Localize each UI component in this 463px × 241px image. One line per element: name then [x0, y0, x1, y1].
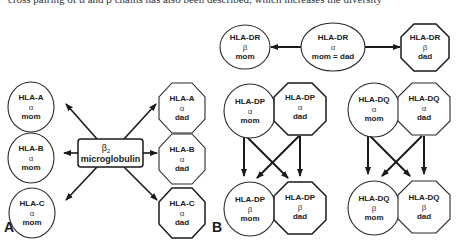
- svg-text:dad: dad: [293, 212, 307, 221]
- svg-text:HLA-B: HLA-B: [170, 145, 195, 154]
- node-hla-dr-beta-dad: HLA-DR β dad: [401, 24, 449, 71]
- arrow-dp-alpha-mom-to-beta-dad: [246, 136, 288, 178]
- svg-text:β: β: [372, 204, 377, 213]
- panel-a: β2 microglobulin HLA-A α mom HLA-B α mom…: [4, 82, 205, 238]
- svg-text:HLA-DP: HLA-DP: [235, 195, 266, 204]
- svg-text:HLA-DR: HLA-DR: [410, 33, 441, 42]
- panel-a-label: A: [4, 219, 14, 235]
- svg-text:dad: dad: [417, 113, 431, 122]
- node-hla-dp-alpha-mom: HLA-DP α mom: [224, 84, 276, 138]
- svg-text:mom: mom: [364, 114, 383, 123]
- arrow-to-hla-c-mom: [66, 167, 97, 200]
- svg-text:dad: dad: [418, 52, 432, 61]
- arrow-dq-alpha-mom-to-beta-dad: [370, 136, 410, 176]
- svg-text:dad: dad: [175, 164, 189, 173]
- node-hla-dp-alpha-dad: HLA-DP α dad: [274, 83, 326, 135]
- arrow-to-hla-c-dad: [124, 167, 157, 200]
- node-hla-c-dad: HLA-C α dad: [159, 188, 205, 238]
- svg-text:dad: dad: [293, 112, 307, 121]
- microglobulin-label: microglobulin: [81, 154, 141, 164]
- arrow-dq-alpha-dad-to-beta-mom: [382, 136, 422, 176]
- arrow-dp-alpha-dad-to-beta-mom: [257, 136, 299, 178]
- svg-text:HLA-C: HLA-C: [20, 199, 45, 208]
- svg-text:dad: dad: [417, 212, 431, 221]
- hla-inheritance-diagram: β2 microglobulin HLA-A α mom HLA-B α mom…: [0, 0, 463, 241]
- svg-text:β: β: [298, 203, 303, 212]
- svg-text:β: β: [243, 43, 248, 52]
- node-hla-dq-alpha-dad: HLA-DQ α dad: [398, 83, 450, 135]
- node-hla-dp-beta-dad: HLA-DP β dad: [274, 182, 326, 234]
- node-hla-a-mom: HLA-A α mom: [8, 82, 54, 132]
- svg-text:HLA-DP: HLA-DP: [285, 193, 316, 202]
- node-hla-dq-beta-mom: HLA-DQ β mom: [348, 181, 400, 235]
- node-hla-dr-alpha-shared: HLA-DR α mom = dad: [301, 23, 365, 71]
- svg-text:α: α: [248, 107, 253, 116]
- svg-text:α: α: [422, 104, 427, 113]
- svg-text:α: α: [180, 209, 185, 218]
- arrow-to-hla-a-dad: [124, 104, 156, 139]
- arrow-to-hla-a-mom: [66, 104, 97, 139]
- svg-text:mom: mom: [21, 163, 40, 172]
- node-hla-c-mom: HLA-C α mom: [9, 188, 55, 238]
- svg-text:HLA-DP: HLA-DP: [285, 93, 316, 102]
- svg-text:HLA-A: HLA-A: [19, 93, 44, 102]
- panel-b-label: B: [212, 219, 222, 235]
- svg-text:HLA-DQ: HLA-DQ: [358, 194, 389, 203]
- svg-text:α: α: [372, 105, 377, 114]
- svg-text:α: α: [298, 103, 303, 112]
- svg-text:mom: mom: [240, 116, 259, 125]
- svg-text:dad: dad: [175, 218, 189, 227]
- svg-text:HLA-DR: HLA-DR: [230, 33, 261, 42]
- svg-text:HLA-DQ: HLA-DQ: [408, 94, 439, 103]
- node-hla-dq-alpha-mom: HLA-DQ α mom: [348, 83, 400, 137]
- panel-b: HLA-DR β mom HLA-DR α mom = dad HLA-DR β…: [212, 23, 450, 236]
- svg-text:HLA-A: HLA-A: [170, 94, 195, 103]
- svg-text:HLA-DQ: HLA-DQ: [358, 95, 389, 104]
- node-hla-b-mom: HLA-B α mom: [8, 133, 54, 183]
- svg-text:HLA-C: HLA-C: [170, 199, 195, 208]
- svg-text:β: β: [423, 43, 428, 52]
- svg-text:α: α: [29, 154, 34, 163]
- svg-text:dad: dad: [175, 113, 189, 122]
- svg-text:mom: mom: [22, 218, 41, 227]
- svg-text:α: α: [180, 104, 185, 113]
- svg-text:mom: mom: [240, 214, 259, 223]
- svg-text:HLA-DR: HLA-DR: [318, 33, 349, 42]
- node-hla-dp-beta-mom: HLA-DP β mom: [224, 182, 276, 236]
- svg-text:β: β: [422, 203, 427, 212]
- svg-text:HLA-DP: HLA-DP: [235, 97, 266, 106]
- svg-text:mom = dad: mom = dad: [312, 52, 355, 61]
- svg-text:α: α: [29, 103, 34, 112]
- svg-text:α: α: [180, 155, 185, 164]
- svg-text:HLA-B: HLA-B: [19, 144, 44, 153]
- node-hla-b-dad: HLA-B α dad: [159, 134, 205, 184]
- svg-text:β: β: [248, 205, 253, 214]
- node-hla-dq-beta-dad: HLA-DQ β dad: [398, 181, 450, 233]
- svg-text:mom: mom: [364, 213, 383, 222]
- svg-text:α: α: [331, 43, 336, 52]
- node-hla-dr-beta-mom: HLA-DR β mom: [220, 25, 270, 69]
- svg-text:α: α: [30, 209, 35, 218]
- svg-text:mom: mom: [21, 112, 40, 121]
- node-hla-a-dad: HLA-A α dad: [159, 83, 205, 133]
- svg-text:mom: mom: [235, 52, 254, 61]
- svg-text:HLA-DQ: HLA-DQ: [408, 193, 439, 202]
- beta2-microglobulin-box: β2 microglobulin: [78, 139, 143, 167]
